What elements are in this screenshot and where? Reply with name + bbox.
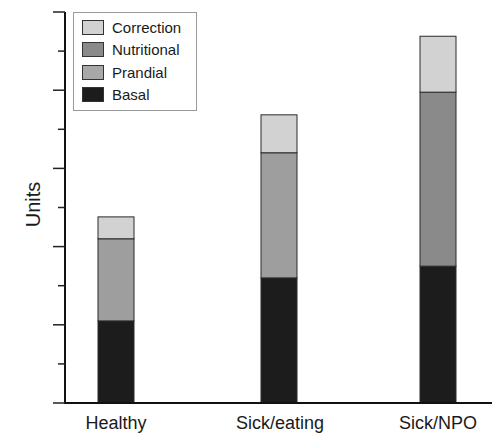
legend: Correction Nutritional Prandial Basal: [73, 12, 197, 111]
bar-segment-basal-sick-eating: [261, 278, 297, 403]
x-tick-label-healthy: Healthy: [46, 413, 186, 434]
legend-label: Prandial: [112, 64, 167, 81]
legend-swatch-prandial: [82, 65, 104, 80]
x-tick-label-sick-npo: Sick/NPO: [368, 413, 502, 434]
legend-item-prandial: Prandial: [82, 62, 167, 82]
legend-item-correction: Correction: [82, 17, 181, 37]
y-axis-label: Units: [22, 175, 45, 235]
bar-segment-nutritional-sick-npo: [420, 92, 456, 266]
legend-label: Correction: [112, 19, 181, 36]
bar-segment-basal-healthy: [98, 321, 134, 403]
legend-label: Nutritional: [112, 41, 180, 58]
stacked-bar-chart: Units Healthy Sick/eating Sick/NPO Corre…: [0, 0, 502, 445]
legend-swatch-nutritional: [82, 42, 104, 57]
x-tick-label-sick-eating: Sick/eating: [210, 413, 350, 434]
bar-segment-correction-sick-npo: [420, 36, 456, 92]
legend-item-nutritional: Nutritional: [82, 39, 180, 59]
legend-item-basal: Basal: [82, 84, 150, 104]
bar-segment-basal-sick-npo: [420, 266, 456, 403]
bar-segment-correction-sick-eating: [261, 115, 297, 153]
bar-segment-correction-healthy: [98, 217, 134, 239]
legend-swatch-correction: [82, 20, 104, 35]
legend-swatch-basal: [82, 87, 104, 102]
legend-label: Basal: [112, 86, 150, 103]
bar-segment-prandial-sick-eating: [261, 153, 297, 278]
bar-segment-prandial-healthy: [98, 239, 134, 321]
